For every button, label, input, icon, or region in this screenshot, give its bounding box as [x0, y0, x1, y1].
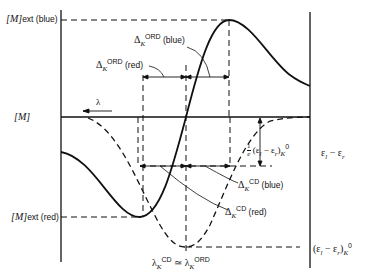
eps-open: (ε	[253, 145, 260, 155]
ord-sup: ORD	[194, 256, 210, 263]
ord-dimension-arrows	[83, 75, 262, 168]
red-tail: (red)	[123, 60, 143, 70]
m-ext-red-label: [M]ext (red)	[11, 212, 59, 222]
k-sub: K	[102, 65, 107, 73]
minus-eps: − ε	[327, 147, 342, 158]
cd-sup: CD	[249, 178, 259, 185]
r-sub: r	[342, 153, 345, 161]
fraction: 1e	[247, 143, 251, 158]
cd-sup: CD	[236, 205, 246, 212]
ext-blue-sub: ext (blue)	[22, 14, 57, 24]
k-sub: K	[244, 185, 249, 193]
k-sub: K	[281, 150, 286, 158]
delta-cd-red-label: ΔKCD (red)	[225, 205, 267, 220]
m-label: [M]	[14, 112, 30, 122]
approx-eq: ≃	[172, 257, 185, 268]
minus-eps: − ε	[261, 145, 274, 155]
m-symbol: [M]	[6, 13, 22, 24]
k-sub: K	[231, 212, 236, 220]
zero-sup: 0	[285, 143, 289, 150]
delta-cd-blue-label: ΔKCD (blue)	[238, 178, 283, 193]
ext-red-sub: ext (red)	[27, 212, 59, 222]
half-height-label: 1e (εl − εr)K0	[247, 143, 289, 158]
zero-sup: 0	[348, 242, 352, 249]
eps-max-label: (εl − εr)K0	[313, 242, 352, 257]
blue-tail: (blue)	[259, 180, 283, 190]
eps-open: (ε	[313, 243, 321, 254]
leader-lines	[149, 47, 238, 210]
m-ext-blue-label: [M]ext (blue)	[6, 14, 58, 24]
k-sub: K	[343, 249, 348, 257]
m-symbol: [M]	[11, 211, 27, 222]
minus-eps: − ε	[322, 243, 337, 254]
red-tail: (red)	[246, 207, 266, 217]
ord-sup: ORD	[145, 33, 161, 40]
k-sub: K	[190, 263, 195, 271]
delta-ord-blue-label: ΔKORD (blue)	[134, 33, 185, 48]
blue-tail: (blue)	[161, 35, 185, 45]
frac-den: e	[247, 151, 251, 158]
k-sub: K	[140, 40, 145, 48]
delta-ord-red-label: ΔKORD (red)	[96, 58, 143, 73]
lambda-equality-label: λKCD ≃ λKORD	[152, 256, 210, 271]
lambda-arrow-label: λ	[96, 98, 100, 107]
k-sub: K	[157, 263, 162, 271]
cd-sup: CD	[162, 256, 172, 263]
ord-sup: ORD	[107, 58, 123, 65]
eps-diff-label: εl − εr	[321, 148, 345, 161]
